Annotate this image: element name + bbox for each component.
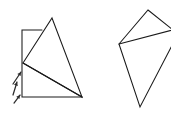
chord-line bbox=[119, 28, 171, 44]
diagram-svg bbox=[0, 0, 171, 116]
figure-canvas bbox=[0, 0, 171, 116]
rectangle-with-overlaid-triangle bbox=[22, 18, 82, 97]
kite-quadrilateral bbox=[119, 10, 171, 107]
diagonal-line bbox=[23, 63, 82, 97]
rectangle bbox=[22, 30, 82, 97]
direction-arrows bbox=[13, 72, 21, 103]
kite bbox=[119, 10, 171, 107]
